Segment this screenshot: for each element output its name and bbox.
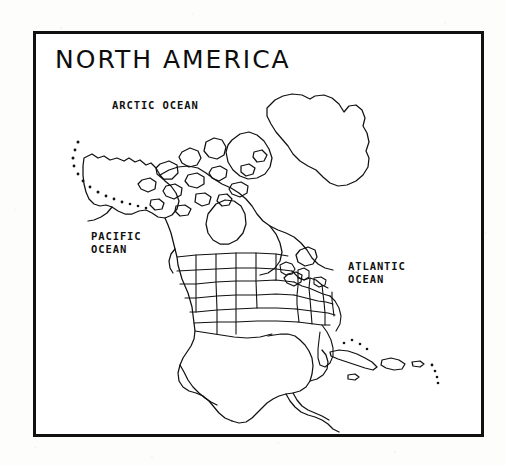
united-states-state-boundaries	[177, 253, 341, 367]
map-frame-border: NORTH AMERICA	[33, 31, 484, 437]
hudson-bay	[206, 200, 246, 244]
hispaniola	[381, 358, 405, 370]
jamaica	[348, 374, 359, 380]
ocean-label-atlantic: ATLANTIC OCEAN	[348, 260, 406, 286]
caribbean-islands	[330, 339, 439, 385]
pacific-coastline	[165, 218, 232, 421]
great-lakes-superior	[280, 262, 295, 275]
puerto-rico	[412, 361, 424, 367]
ocean-label-pacific: PACIFIC OCEAN	[91, 230, 142, 256]
cuba	[330, 350, 377, 370]
mexico-outline	[232, 334, 339, 432]
great-lakes-erie-ontario	[314, 277, 326, 287]
scanned-page: NORTH AMERICA	[0, 0, 506, 466]
canadian-arctic-archipelago	[138, 132, 272, 216]
ocean-label-arctic: ARCTIC OCEAN	[112, 99, 199, 112]
greenland-outline	[267, 94, 369, 186]
